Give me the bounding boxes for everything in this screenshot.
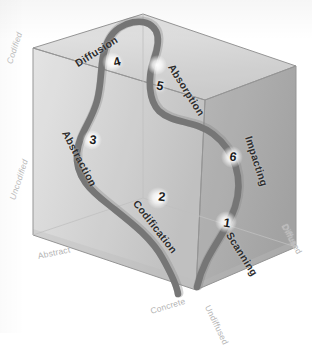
cube-illustration	[0, 0, 312, 333]
figure-canvas: Codified Uncodified Abstract Concrete Un…	[0, 0, 312, 333]
